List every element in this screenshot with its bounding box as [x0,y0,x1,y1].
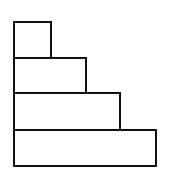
block-3 [13,92,121,131]
block-4-bottom [13,129,157,167]
staircase-diagram [0,0,171,173]
block-2 [13,57,87,94]
block-1-top [13,21,52,59]
